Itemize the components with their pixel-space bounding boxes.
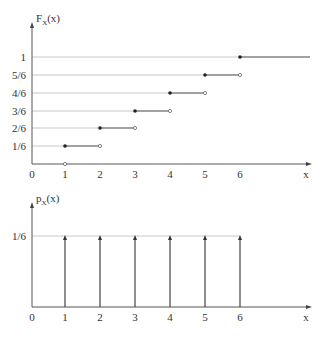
svg-text:1: 1 <box>62 168 68 180</box>
svg-text:3/6: 3/6 <box>12 105 27 117</box>
svg-text:0: 0 <box>29 311 35 323</box>
pmf-x-ticks: 0 1 2 3 4 5 6 x <box>29 311 309 323</box>
cdf-open-dots <box>63 73 241 165</box>
pmf-y-label: pX(x) <box>36 192 60 207</box>
cdf-guide-lines <box>32 57 240 146</box>
svg-text:4/6: 4/6 <box>12 87 27 99</box>
pmf-y-tick: 1/6 <box>12 230 27 242</box>
cdf-steps <box>65 57 310 146</box>
pmf-y-axis-arrow-icon <box>30 202 34 208</box>
pmf-x-axis-arrow-icon <box>306 305 312 309</box>
svg-text:5/6: 5/6 <box>12 69 27 81</box>
svg-text:6: 6 <box>237 311 243 323</box>
pmf-stems <box>65 239 240 307</box>
svg-text:2/6: 2/6 <box>12 122 27 134</box>
svg-text:4: 4 <box>167 168 173 180</box>
svg-text:6: 6 <box>237 168 243 180</box>
svg-text:2: 2 <box>97 311 103 323</box>
svg-text:2: 2 <box>97 168 103 180</box>
svg-text:0: 0 <box>29 168 35 180</box>
cdf-y-axis-arrow-icon <box>30 22 34 28</box>
cdf-x-ticks: 0 1 2 3 4 5 6 x <box>29 168 309 180</box>
svg-text:5: 5 <box>202 311 208 323</box>
svg-text:1: 1 <box>62 311 68 323</box>
cdf-axes <box>32 26 308 164</box>
cdf-x-axis-arrow-icon <box>306 162 312 166</box>
cdf-x-label: x <box>303 168 309 180</box>
svg-text:1/6: 1/6 <box>12 140 27 152</box>
svg-text:1: 1 <box>21 51 27 63</box>
cdf-y-label: FX(x) <box>36 12 60 27</box>
svg-text:5: 5 <box>202 168 208 180</box>
svg-text:3: 3 <box>132 168 138 180</box>
cdf-chart: FX(x) 1 5/6 4/6 3/6 2/6 1/6 0 1 2 3 4 5 … <box>12 12 312 180</box>
cdf-y-ticks: 1 5/6 4/6 3/6 2/6 1/6 <box>12 51 27 152</box>
svg-text:3: 3 <box>132 311 138 323</box>
cdf-closed-dots <box>63 55 242 148</box>
svg-text:4: 4 <box>167 311 173 323</box>
pmf-x-label: x <box>303 311 309 323</box>
pmf-chart: pX(x) 1/6 0 1 2 3 4 5 6 x <box>12 192 312 323</box>
figure: FX(x) 1 5/6 4/6 3/6 2/6 1/6 0 1 2 3 4 5 … <box>0 0 327 338</box>
